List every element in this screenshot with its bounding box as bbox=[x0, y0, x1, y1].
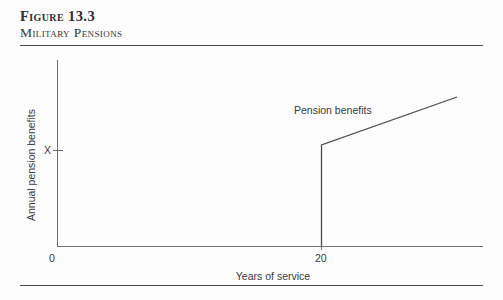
chart-svg bbox=[0, 0, 503, 300]
chart-plot-area bbox=[0, 0, 503, 300]
series-annotation-label: Pension benefits bbox=[294, 104, 372, 116]
x-tick-label-0: 0 bbox=[49, 252, 55, 264]
y-tick-label-x: X bbox=[44, 144, 51, 156]
y-axis-title: Annual pension benefits bbox=[25, 85, 37, 245]
pension-benefits-line bbox=[322, 97, 458, 246]
x-axis-title: Years of service bbox=[193, 270, 353, 282]
x-tick-label-20: 20 bbox=[315, 252, 327, 264]
figure-page: Figure 13.3 Military Pensions Annual pen… bbox=[0, 0, 503, 300]
